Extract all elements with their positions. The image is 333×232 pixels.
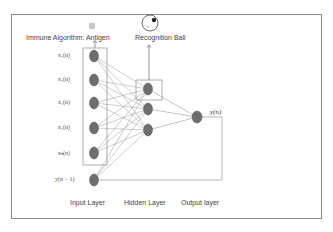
antigen-label: Immune Algorithm: Antigen [26, 34, 110, 41]
input-node-3 [90, 97, 99, 109]
hidden-layer-label: Hidden Layer [124, 199, 166, 206]
hidden-output-edges [148, 89, 197, 130]
input-label-n: xₙ(n) [58, 149, 70, 156]
input-node-4 [90, 122, 99, 134]
input-label-2: x₂(n) [58, 76, 70, 82]
output-node [192, 111, 202, 123]
feedback-loop [94, 117, 222, 180]
input-label-1: x₁(n) [58, 52, 70, 58]
input-node-2 [90, 74, 99, 86]
hidden-node-2 [144, 103, 153, 115]
output-layer-label: Output layer [181, 199, 219, 206]
recognition-ball-icon [142, 15, 158, 31]
hidden-node-3 [144, 124, 153, 136]
input-node-feedback [90, 174, 99, 186]
output-label: y(n) [210, 108, 221, 116]
input-label-4: x₄(n) [58, 124, 70, 130]
input-layer-label: Input Layer [70, 199, 105, 206]
antigen-icon [89, 23, 95, 29]
arrows [93, 41, 151, 81]
hidden-node-1 [144, 83, 153, 95]
input-label-3: x₃(n) [58, 99, 70, 105]
input-hidden-edges [94, 56, 148, 180]
recognition-ball-label: Recognition Ball [135, 34, 186, 41]
input-label-feedback: y(n − 1) [55, 176, 74, 182]
input-node-n [90, 147, 99, 159]
input-node-1 [90, 50, 99, 62]
